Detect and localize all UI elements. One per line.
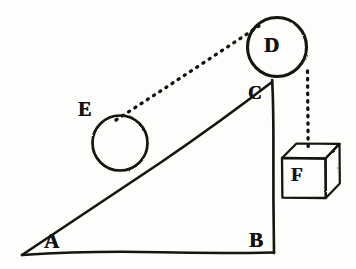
point-label-A: A [44,231,59,252]
dotted-cord-segment-upper [116,26,259,120]
point-label-B: B [249,230,263,251]
incline-surface-AC [22,82,272,255]
triangle-base-AB [22,252,274,255]
roller-ball-E [93,116,148,171]
cord-E-to-D [116,26,259,120]
figure-canvas: A B C D E F [0,0,356,269]
point-label-E: E [78,99,91,119]
point-label-F: F [291,165,303,184]
cube-right-face [326,144,340,198]
cord-D-to-F [308,71,309,150]
point-label-C: C [248,83,262,102]
point-label-D: D [264,35,279,56]
triangle-vertical-BC [272,80,274,253]
cube-front-face [282,158,326,198]
roller-E-group [93,116,148,171]
dotted-cord-segment-lower [308,71,309,150]
cube-top-face [282,144,340,159]
incline-triangle-ABC [22,80,274,255]
